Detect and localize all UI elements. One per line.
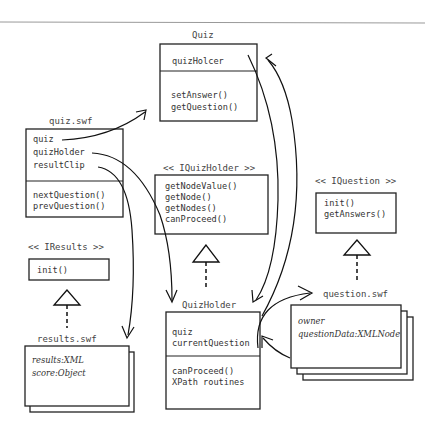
class-quiz-title: Quiz	[192, 30, 214, 40]
iresults-method: init()	[37, 265, 68, 275]
quiz-attr: quizHolcer	[172, 56, 224, 66]
quiz-method: setAnswer()	[171, 90, 228, 100]
top-divider	[0, 22, 425, 23]
iquizholder-method: canProceed()	[165, 214, 227, 224]
results-swf-attr: results:XML	[32, 355, 84, 365]
question-swf-attr: questionData:XMLNode	[298, 329, 400, 339]
class-quizholder-title: QuizHolder	[182, 300, 237, 310]
quiz-swf-attr: resultClip	[33, 160, 85, 170]
interface-iresults: << IResults >> init()	[28, 242, 109, 328]
quizholder-attr: currentQuestion	[172, 338, 250, 348]
quizholder-attr: quiz	[172, 327, 193, 337]
class-question-swf: question.swf owner questionData:XMLNode	[291, 289, 413, 380]
iquestion-method: init()	[324, 198, 355, 208]
quizholder-method: XPath routines	[172, 377, 244, 387]
interface-iquestion: << IQuestion >> init() getAnswers()	[315, 176, 397, 283]
iquizholder-method: getNodes()	[165, 203, 217, 213]
inheritance-triangle-icon	[54, 290, 80, 305]
interface-iresults-title: << IResults >>	[28, 242, 104, 252]
inheritance-triangle-icon	[344, 240, 370, 255]
quiz-swf-method: prevQuestion()	[33, 201, 105, 211]
quiz-swf-method: nextQuestion()	[33, 190, 105, 200]
inheritance-triangle-icon	[193, 245, 219, 262]
interface-iquizholder: << IQuizHolder >> getNodeValue() getNode…	[155, 163, 268, 290]
quiz-swf-attr: quizHolder	[33, 147, 85, 157]
class-question-swf-title: question.swf	[323, 289, 388, 299]
class-quizholder: QuizHolder quiz currentQuestion canProce…	[166, 300, 260, 409]
class-results-swf-title: results.swf	[37, 334, 97, 344]
class-quiz: Quiz quizHolcer setAnswer() getQuestion(…	[160, 30, 257, 121]
arrow-owner-to-QuizHolder	[263, 338, 290, 358]
iquestion-method: getAnswers()	[324, 209, 386, 219]
iquizholder-method: getNode()	[165, 192, 212, 202]
interface-iquestion-title: << IQuestion >>	[315, 176, 397, 186]
results-swf-attr: score:Object	[32, 368, 86, 378]
question-swf-attr: owner	[298, 316, 326, 326]
class-quiz-swf-title: quiz.swf	[49, 116, 92, 126]
quizholder-method: canProceed()	[172, 366, 234, 376]
interface-iquizholder-title: << IQuizHolder >>	[163, 163, 256, 173]
quiz-method: getQuestion()	[171, 102, 238, 112]
iquizholder-method: getNodeValue()	[165, 181, 237, 191]
class-results-swf: results.swf results:XML score:Object	[25, 334, 134, 412]
diagram-canvas: Quiz quizHolcer setAnswer() getQuestion(…	[0, 0, 436, 428]
quiz-swf-attr: quiz	[33, 134, 54, 144]
